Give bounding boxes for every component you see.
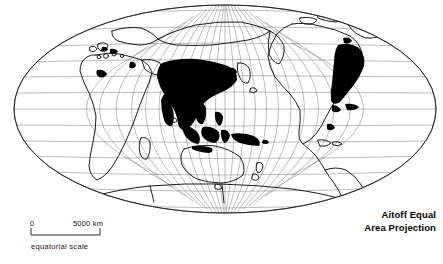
scale-bar-max-label: 5000 km bbox=[73, 219, 103, 228]
projection-title-line1: Aitoff Equal bbox=[364, 209, 436, 222]
scale-bar-min-label: 0 bbox=[30, 219, 34, 228]
scale-bar bbox=[31, 228, 100, 235]
projection-title-line2: Area Projection bbox=[364, 222, 436, 235]
scale-bar-caption: equatorial scale bbox=[31, 242, 88, 251]
projection-title: Aitoff Equal Area Projection bbox=[364, 209, 436, 234]
